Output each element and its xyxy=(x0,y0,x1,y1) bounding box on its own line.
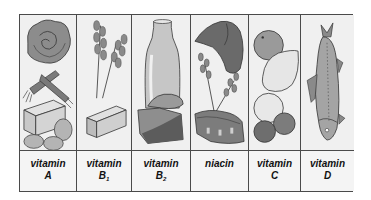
label-line1: vitamin xyxy=(310,158,345,170)
label-subscript: 2 xyxy=(163,176,166,182)
label-letter: B xyxy=(156,170,163,181)
vitamin-b2-label: vitamin B2 xyxy=(132,151,190,191)
vitamin-b1-foods-illustration xyxy=(77,15,131,151)
column-vitamin-b1: vitamin B1 xyxy=(77,15,132,191)
column-vitamin-a: vitamin A xyxy=(20,15,77,191)
label-line2: B2 xyxy=(156,170,167,185)
vitamin-b2-foods-illustration xyxy=(132,15,190,151)
cabbage-carrots-butter-eggs-icon xyxy=(20,15,76,150)
milk-liver-meat-icon xyxy=(132,15,190,150)
liver-wheat-meat-icon xyxy=(191,15,248,150)
niacin-foods-illustration xyxy=(191,15,248,151)
vitamin-d-label: vitamin D xyxy=(301,151,354,191)
fish-icon xyxy=(301,15,354,150)
column-niacin: niacin xyxy=(191,15,249,191)
vitamin-b1-label: vitamin B1 xyxy=(77,151,131,191)
label-line2: B1 xyxy=(99,170,110,185)
vitamin-c-label: vitamin C xyxy=(249,151,300,191)
label-line1: vitamin xyxy=(257,158,292,170)
citrus-tomatoes-icon xyxy=(249,15,300,150)
niacin-label: niacin xyxy=(191,151,248,191)
vitamin-d-foods-illustration xyxy=(301,15,354,151)
label-line1: vitamin xyxy=(86,158,121,170)
column-vitamin-c: vitamin C xyxy=(249,15,301,191)
label-line1: niacin xyxy=(205,158,234,170)
label-subscript: 1 xyxy=(106,176,109,182)
column-vitamin-b2: vitamin B2 xyxy=(132,15,191,191)
vitamin-a-foods-illustration xyxy=(20,15,76,151)
column-vitamin-d: vitamin D xyxy=(301,15,354,191)
label-line1: vitamin xyxy=(143,158,178,170)
vitamin-c-foods-illustration xyxy=(249,15,300,151)
vitamin-food-table: vitamin A xyxy=(19,14,353,192)
label-line2: D xyxy=(324,170,331,182)
wheat-butter-icon xyxy=(77,15,131,150)
vitamin-a-label: vitamin A xyxy=(20,151,76,191)
label-line2: C xyxy=(271,170,278,182)
label-line2: A xyxy=(44,170,51,182)
label-line1: vitamin xyxy=(30,158,65,170)
label-letter: B xyxy=(99,170,106,181)
